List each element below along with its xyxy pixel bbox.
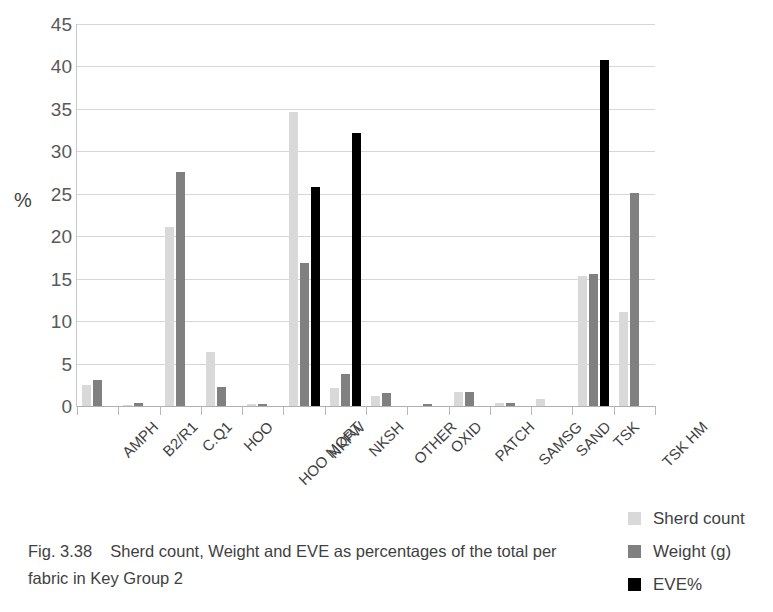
bar [165,227,174,406]
legend-item: Weight (g) [628,535,773,568]
y-axis-tick-label: 25 [51,184,72,203]
bar [176,172,185,406]
bar [82,385,91,406]
bar-group [325,24,366,406]
x-axis-label: TSK [610,418,643,451]
bar [465,392,474,406]
y-axis-tick-label: 45 [51,15,72,34]
y-axis-tick-label: 10 [51,312,72,331]
bar-chart: % 051015202530354045 AMPHB2/R1C.Q1HOOHOO… [0,0,680,500]
x-axis-tick [325,406,326,415]
x-axis-tick [118,406,119,415]
figure-caption-text: Sherd count, Weight and EVE as percentag… [28,542,557,587]
x-axis-tick [366,406,367,415]
bar [454,392,463,406]
plot-area [77,24,655,406]
x-axis-tick [201,406,202,415]
bar-group [366,24,407,406]
y-axis-tick-label: 5 [61,354,72,373]
bar [352,133,361,406]
legend-label: EVE% [653,575,702,595]
x-axis-tick [655,406,656,415]
figure-caption: Fig. 3.38Sherd count, Weight and EVE as … [28,538,588,592]
chart-legend: Sherd countWeight (g)EVE% [628,502,773,601]
bar-group [614,24,655,406]
bar [300,263,309,406]
x-axis-label: AMPH [118,418,161,461]
bar [578,276,587,406]
bar-group [118,24,159,406]
x-axis-label: C.Q1 [198,418,235,455]
bar-group [242,24,283,406]
bar [619,312,628,406]
bar-group [531,24,572,406]
x-axis-tick [77,406,78,415]
x-axis-tick [283,406,284,415]
bar [341,374,350,406]
bar [93,380,102,406]
bar [371,396,380,406]
legend-item: Sherd count [628,502,773,535]
x-axis-label: NKSH [366,418,407,459]
x-axis-tick [490,406,491,415]
x-axis-tick [572,406,573,415]
x-axis-label: PATCH [491,418,537,464]
bar-group [201,24,242,406]
bar [289,112,298,406]
y-axis-tick-label: 15 [51,269,72,288]
bar-group [407,24,448,406]
legend-swatch-icon [628,512,641,525]
bar [630,193,639,406]
x-axis-tick [531,406,532,415]
y-axis-tick-label: 0 [61,397,72,416]
y-axis-tick-labels: 051015202530354045 [40,0,76,420]
figure-container: % 051015202530354045 AMPHB2/R1C.Q1HOOHOO… [0,0,773,612]
legend-label: Weight (g) [653,542,731,562]
bar [382,393,391,406]
bar-group [490,24,531,406]
bar-group [77,24,118,406]
bar-group [449,24,490,406]
x-axis-label: HOO [240,418,276,454]
x-axis-label: TSK HM [659,418,711,470]
bar [311,187,320,406]
y-axis-tick-label: 35 [51,99,72,118]
legend-swatch-icon [628,578,641,591]
figure-number: Fig. 3.38 [28,542,92,560]
legend-item: EVE% [628,568,773,601]
y-axis-tick-label: 40 [51,57,72,76]
legend-swatch-icon [628,545,641,558]
y-axis-tick-label: 30 [51,142,72,161]
x-axis-tick [449,406,450,415]
x-axis-tick [407,406,408,415]
x-axis-tick [160,406,161,415]
x-axis-tick [242,406,243,415]
y-axis-title: % [6,189,40,212]
bar [217,387,226,406]
x-axis-tick [614,406,615,415]
bar [600,60,609,406]
bar-group [160,24,201,406]
bar-group [572,24,613,406]
bar-group [283,24,324,406]
bar [330,388,339,406]
bar [589,274,598,406]
bar [206,352,215,406]
y-axis-tick-label: 20 [51,227,72,246]
legend-label: Sherd count [653,509,745,529]
bar [536,399,545,406]
x-axis-label: B2/R1 [159,418,201,460]
